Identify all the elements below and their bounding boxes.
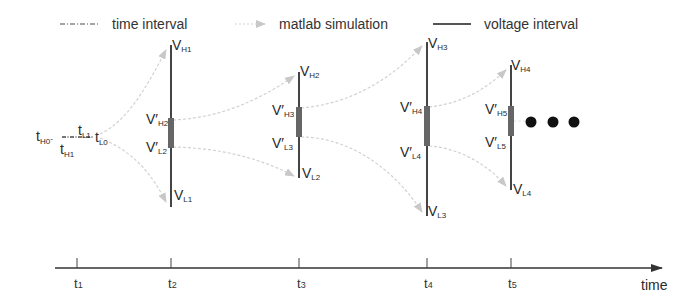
inner-top-label: V′H4 xyxy=(400,99,423,116)
inner-top-label: V′H5 xyxy=(485,101,508,118)
voltage-interval-2: VH2 VL2 V′H3 V′L3 xyxy=(272,63,321,182)
time-axis: t1 t2 t3 t4 t5 time xyxy=(55,258,668,293)
voltage-interval-1: VH1 VL1 V′H2 V′L2 xyxy=(146,37,193,207)
legend-item-time-interval: time interval xyxy=(60,16,187,32)
inner-interval xyxy=(296,107,302,137)
bottom-label: VL1 xyxy=(174,187,193,204)
sim-arrow xyxy=(429,146,506,186)
legend-label: voltage interval xyxy=(484,16,578,32)
t-h0-label: tH0- xyxy=(36,128,53,146)
tick-label-t3: t3 xyxy=(297,276,306,291)
axis-label: time xyxy=(641,277,668,293)
ellipsis-dots-icon xyxy=(526,117,580,128)
voltage-interval-diagram: time interval matlab simulation voltage … xyxy=(0,0,699,304)
sim-arrow xyxy=(173,147,294,176)
tick-label-t5: t5 xyxy=(508,276,517,291)
top-label: VH4 xyxy=(511,57,531,74)
top-label: VH2 xyxy=(300,63,320,80)
inner-bottom-label: V′L4 xyxy=(400,144,421,161)
legend-label: time interval xyxy=(112,16,187,32)
inner-interval xyxy=(508,106,514,136)
legend: time interval matlab simulation voltage … xyxy=(60,16,578,32)
inner-top-label: V′H2 xyxy=(146,111,169,128)
inner-top-label: V′H3 xyxy=(272,102,295,119)
top-label: VH3 xyxy=(428,35,448,52)
bottom-label: VL3 xyxy=(428,203,447,220)
tick-label-t2: t2 xyxy=(168,276,177,291)
legend-item-matlab-simulation: matlab simulation xyxy=(235,16,388,32)
voltage-interval-4: VH4 VL4 V′H5 V′L5 xyxy=(485,57,532,198)
tick-label-t4: t4 xyxy=(424,276,433,291)
legend-label: matlab simulation xyxy=(279,16,388,32)
voltage-interval-3: VH3 VL3 V′H4 V′L4 xyxy=(400,35,448,220)
t-l1-label: tL1 xyxy=(78,122,91,140)
inner-interval xyxy=(424,106,430,146)
t-l0-label: tL0 xyxy=(95,129,108,147)
inner-bottom-label: V′L3 xyxy=(272,135,293,152)
inner-bottom-label: V′L2 xyxy=(146,139,167,156)
initial-time-interval: tH0- tH1 tL1 tL0 xyxy=(36,122,108,159)
bottom-label: VL2 xyxy=(302,165,321,182)
inner-bottom-label: V′L5 xyxy=(485,134,506,151)
tick-label-t1: t1 xyxy=(74,276,83,291)
top-label: VH1 xyxy=(172,37,192,54)
bottom-label: VL4 xyxy=(513,181,532,198)
legend-item-voltage-interval: voltage interval xyxy=(433,16,578,32)
inner-interval xyxy=(168,118,174,148)
t-h1-label: tH1 xyxy=(60,141,75,159)
